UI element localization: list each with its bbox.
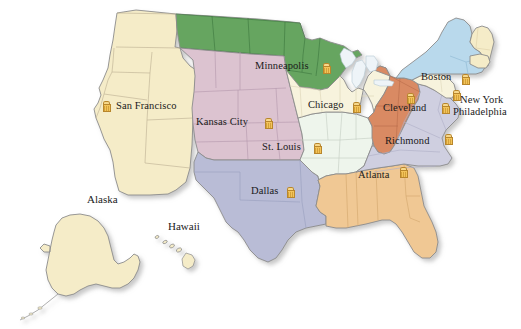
city-label-san-francisco: San Francisco bbox=[116, 101, 177, 112]
lake-michigan bbox=[352, 60, 366, 88]
bank-column-icon bbox=[447, 108, 448, 113]
bank-column-icon bbox=[328, 68, 329, 73]
bank-marker-minneapolis[interactable] bbox=[322, 63, 331, 74]
district-shape-boston-mass bbox=[470, 54, 490, 68]
city-label-st-louis: St. Louis bbox=[262, 142, 301, 153]
bank-marker-kansas-city[interactable] bbox=[264, 118, 273, 129]
bank-marker-boston[interactable] bbox=[461, 74, 470, 85]
city-label-richmond: Richmond bbox=[385, 136, 430, 147]
lake-erie bbox=[374, 80, 394, 86]
city-label-dallas: Dallas bbox=[251, 186, 278, 197]
bank-marker-new-york[interactable] bbox=[452, 90, 461, 101]
bank-column-icon bbox=[319, 148, 320, 153]
city-label-boston: Boston bbox=[421, 72, 451, 83]
city-label-cleveland: Cleveland bbox=[383, 103, 426, 114]
bank-column-icon bbox=[467, 79, 468, 84]
bank-marker-san-francisco[interactable] bbox=[102, 101, 111, 112]
city-label-chicago: Chicago bbox=[308, 100, 344, 111]
bank-column-icon bbox=[458, 95, 459, 100]
alaska-shape bbox=[40, 214, 140, 296]
lake-huron bbox=[366, 56, 378, 72]
city-label-philadelphia: Philadelphia bbox=[453, 107, 507, 118]
city-label-kansas-city: Kansas City bbox=[196, 117, 248, 128]
bank-column-icon bbox=[292, 192, 293, 197]
bank-marker-st-louis[interactable] bbox=[313, 143, 322, 154]
bank-marker-chicago[interactable] bbox=[352, 102, 361, 113]
district-shape-dallas bbox=[194, 152, 326, 262]
bank-column-icon bbox=[450, 139, 451, 144]
bank-marker-dallas[interactable] bbox=[286, 187, 295, 198]
bank-marker-richmond[interactable] bbox=[444, 134, 453, 145]
bank-column-icon bbox=[270, 123, 271, 128]
district-boston[interactable] bbox=[470, 26, 494, 68]
alaska-inset-shape[interactable] bbox=[20, 214, 140, 320]
map-canvas bbox=[0, 0, 521, 329]
us-federal-reserve-districts-map: San Francisco Minneapolis Kansas City St… bbox=[0, 0, 521, 329]
mainland-group bbox=[94, 10, 494, 262]
city-label-minneapolis: Minneapolis bbox=[255, 61, 309, 72]
city-label-atlanta: Atlanta bbox=[358, 170, 390, 181]
hawaii-inset-shape[interactable] bbox=[155, 235, 195, 269]
bank-column-icon bbox=[108, 106, 109, 111]
city-label-new-york: New York bbox=[460, 95, 503, 106]
district-dallas[interactable] bbox=[194, 152, 326, 262]
bank-marker-atlanta[interactable] bbox=[399, 167, 408, 178]
inset-label-hawaii: Hawaii bbox=[168, 221, 200, 232]
inset-label-alaska: Alaska bbox=[87, 194, 118, 205]
aleutian-islands bbox=[21, 307, 42, 319]
bank-marker-cleveland[interactable] bbox=[406, 93, 415, 104]
bank-marker-philadelphia[interactable] bbox=[441, 103, 450, 114]
bank-column-icon bbox=[405, 172, 406, 177]
bank-column-icon bbox=[358, 107, 359, 112]
bank-column-icon bbox=[412, 98, 413, 103]
